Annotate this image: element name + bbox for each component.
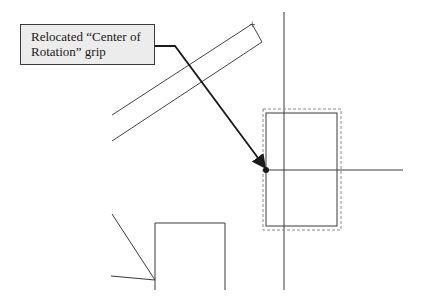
callout-label: Relocated “Center of Rotation” grip bbox=[20, 24, 155, 65]
callout-text: Relocated “Center of Rotation” grip bbox=[31, 29, 141, 59]
callout-leader-arrow bbox=[155, 46, 264, 166]
center-of-rotation-grip[interactable] bbox=[263, 167, 269, 173]
lower-left-shape bbox=[111, 214, 225, 290]
diagram-canvas: + Relocated “Center of Rotation” grip bbox=[0, 0, 424, 305]
svg-text:+: + bbox=[249, 20, 256, 29]
